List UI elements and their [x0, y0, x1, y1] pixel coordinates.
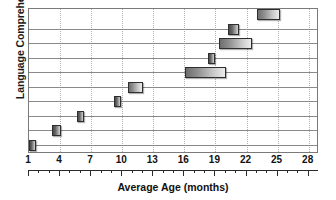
x-tick-label: 13 — [147, 154, 158, 165]
x-tick-label: 22 — [240, 154, 251, 165]
bar — [77, 111, 84, 122]
minor-tick — [69, 170, 70, 173]
minor-tick — [132, 170, 133, 173]
minor-tick — [287, 170, 288, 173]
row-separator-line — [29, 116, 317, 117]
bar — [114, 96, 121, 107]
x-axis-title: Average Age (months) — [28, 181, 318, 193]
major-tick — [183, 170, 184, 176]
row-separator-line — [29, 58, 317, 59]
x-axis-tick-labels: 14710131619222528 — [28, 154, 318, 168]
major-tick — [121, 170, 122, 176]
minor-tick — [38, 170, 39, 173]
minor-tick — [256, 170, 257, 173]
y-axis-title: Language Comprehension — [14, 0, 26, 109]
minor-tick — [235, 170, 236, 173]
major-tick — [308, 170, 309, 176]
minor-tick — [266, 170, 267, 173]
x-tick-label: 19 — [209, 154, 220, 165]
bar — [228, 24, 239, 35]
bar — [257, 9, 280, 20]
row-separator-line — [29, 43, 317, 44]
x-tick-label: 4 — [56, 154, 62, 165]
major-tick — [152, 170, 153, 176]
bar — [128, 82, 143, 93]
minor-tick — [111, 170, 112, 173]
minor-tick — [194, 170, 195, 173]
chart-container: Language Comprehension 14710131619222528… — [0, 0, 336, 200]
x-tick-label: 28 — [302, 154, 313, 165]
x-tick-label: 7 — [87, 154, 93, 165]
row-separator-line — [29, 72, 317, 73]
major-tick — [277, 170, 278, 176]
major-tick — [214, 170, 215, 176]
minor-tick — [80, 170, 81, 173]
minor-tick — [101, 170, 102, 173]
bar — [29, 140, 36, 151]
minor-tick — [173, 170, 174, 173]
x-tick-label: 25 — [271, 154, 282, 165]
minor-tick — [49, 170, 50, 173]
bar — [208, 53, 215, 64]
minor-tick — [163, 170, 164, 173]
minor-tick — [142, 170, 143, 173]
x-tick-label: 16 — [178, 154, 189, 165]
major-tick — [28, 170, 29, 176]
major-tick — [59, 170, 60, 176]
bar — [52, 125, 61, 136]
minor-tick — [225, 170, 226, 173]
row-separator-line — [29, 29, 317, 30]
minor-tick — [204, 170, 205, 173]
x-tick-label: 10 — [116, 154, 127, 165]
minor-tick — [297, 170, 298, 173]
bar — [219, 38, 252, 49]
x-tick-label: 1 — [25, 154, 31, 165]
plot-area — [28, 8, 318, 153]
row-separator-line — [29, 145, 317, 146]
row-separator-line — [29, 87, 317, 88]
row-separator-line — [29, 101, 317, 102]
row-separator-line — [29, 130, 317, 131]
major-tick — [90, 170, 91, 176]
major-tick — [246, 170, 247, 176]
bar — [185, 67, 225, 78]
